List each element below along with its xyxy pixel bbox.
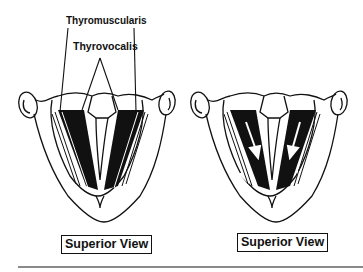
left-panel-caption: Superior View [61, 235, 152, 254]
larynx-diagram [0, 0, 363, 272]
thyrovocalis-label: Thyrovocalis [73, 40, 138, 52]
bottom-divider [18, 266, 363, 268]
thyromuscularis-label: Thyromuscularis [66, 15, 147, 26]
left-larynx-drawing [16, 90, 177, 222]
right-larynx-drawing [188, 90, 349, 222]
right-panel-caption: Superior View [237, 233, 328, 252]
